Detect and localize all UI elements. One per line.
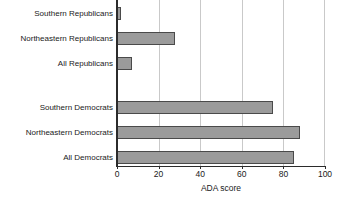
gridline-60 xyxy=(242,0,243,166)
category-label-text: Southern Republicans xyxy=(34,9,113,18)
bar-all-democrats xyxy=(117,151,294,164)
category-label-southern-democrats: Southern Democrats xyxy=(0,101,113,114)
tick-label-0: 0 xyxy=(105,169,129,179)
x-axis-line xyxy=(116,166,325,168)
bar-northeastern-republicans xyxy=(117,32,175,45)
bar-southern-democrats xyxy=(117,101,273,114)
tick-label-100: 100 xyxy=(313,169,337,179)
category-label-text: All Republicans xyxy=(58,59,113,68)
y-axis-line xyxy=(116,0,118,167)
category-label-northeastern-democrats: Northeastern Democrats xyxy=(0,126,113,139)
category-label-all-republicans: All Republicans xyxy=(0,57,113,70)
gridline-80 xyxy=(283,0,284,166)
bar-southern-republicans xyxy=(117,7,121,20)
tick-label-60: 60 xyxy=(230,169,254,179)
tick-label-80: 80 xyxy=(271,169,295,179)
category-label-text: Northeastern Democrats xyxy=(26,128,113,137)
bar-northeastern-democrats xyxy=(117,126,300,139)
gridline-40 xyxy=(200,0,201,166)
category-label-text: Northeastern Republicans xyxy=(21,34,114,43)
tick-label-20: 20 xyxy=(147,169,171,179)
bar-all-republicans xyxy=(117,57,132,70)
bar-chart: Southern Republicans Northeastern Republ… xyxy=(0,0,338,200)
tick-label-40: 40 xyxy=(188,169,212,179)
category-label-southern-republicans: Southern Republicans xyxy=(0,7,113,20)
gridline-100 xyxy=(324,0,325,166)
gridline-20 xyxy=(159,0,160,166)
category-label-all-democrats: All Democrats xyxy=(0,151,113,164)
category-label-text: Southern Democrats xyxy=(40,103,113,112)
category-label-text: All Democrats xyxy=(63,153,113,162)
category-label-northeastern-republicans: Northeastern Republicans xyxy=(0,32,113,45)
x-axis-title: ADA score xyxy=(117,183,325,193)
plot-area xyxy=(117,0,325,166)
